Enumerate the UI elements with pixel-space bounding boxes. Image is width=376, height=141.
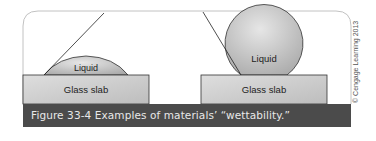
wettability-figure: Liquid Glass slab Liquid Glass slab Figu… [0,0,376,141]
figure-caption: Figure 33-4 Examples of materials’ “wett… [23,104,351,127]
slab-label: Glass slab [64,84,108,95]
copyright-notice: © Cengage Learning 2013 [352,13,362,103]
liquid-label: Liquid [251,53,276,64]
slab-label: Glass slab [242,84,286,95]
liquid-drop-bead [225,5,303,75]
panel-non-wetting: Liquid Glass slab [201,5,327,104]
panel-wetting: Liquid Glass slab [23,13,149,104]
liquid-label: Liquid [74,63,98,73]
